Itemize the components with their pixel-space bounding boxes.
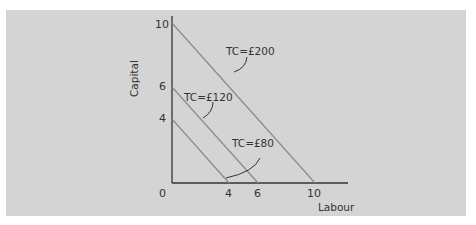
y-tick-4: 4 [159,112,166,125]
x-tick-4: 4 [225,187,232,200]
isocost-line-80 [172,119,229,183]
label-tc-120: TC=£120 [183,91,233,103]
x-axis-title: Labour [318,201,355,213]
leader-80 [226,158,260,178]
label-tc-80: TC=£80 [231,137,274,149]
x-tick-10: 10 [307,187,321,200]
leader-200 [234,57,247,72]
label-tc-200: TC=£200 [225,45,275,57]
y-tick-10: 10 [155,18,169,31]
leader-120 [203,102,213,118]
origin-label: 0 [159,187,166,200]
x-tick-6: 6 [254,187,261,200]
y-axis-title: Capital [128,60,140,97]
y-tick-6: 6 [159,80,166,93]
isocost-chart: TC=£200 TC=£120 TC=£80 10 6 4 0 4 6 10 L… [0,0,476,225]
